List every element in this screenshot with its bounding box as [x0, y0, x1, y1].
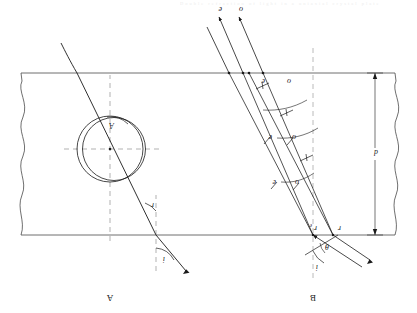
crystal-slab	[20, 73, 399, 235]
panel-a-title: A	[106, 293, 113, 303]
dimension-arrow-top	[373, 229, 377, 235]
panelB-angle-r-o-label: r	[337, 224, 341, 233]
dot	[312, 234, 314, 236]
panelB-incident-ray-1	[313, 235, 362, 267]
panelA-exit-ray	[61, 43, 77, 73]
panelB-exit-ray-o	[239, 17, 263, 73]
panelB-internal-rays	[229, 73, 333, 235]
panelB-incident-ray-2	[333, 235, 370, 260]
diagram-svg: d i θ r r e	[0, 0, 417, 313]
thickness-dimension: d	[367, 73, 383, 235]
panelB-angle-i-arc	[313, 251, 324, 263]
panelB-wavefronts: o e o e o e	[261, 77, 318, 187]
panelB-internal-ray-o2	[243, 73, 313, 235]
ellipsoid-centre-dot	[109, 148, 112, 151]
panelB-internal-ray-e2	[229, 73, 313, 235]
panelB-optic-axis	[305, 235, 338, 255]
panelB-angle-r-e-label: r	[313, 224, 317, 233]
panelB-wavefront-label-o3: o	[287, 77, 291, 86]
panelB-exit-ray-e	[219, 17, 243, 73]
panelB-exit-label-e: e	[218, 5, 222, 14]
panel-a: i r A A	[61, 43, 190, 303]
panelA-refracted-ray	[77, 73, 156, 235]
slab-right-break-edge	[20, 73, 25, 235]
panelB-wavefront-label-o2: o	[292, 133, 296, 142]
panelB-exit-label-o: o	[239, 5, 243, 14]
thickness-label-d: d	[373, 148, 378, 157]
panel-b-title: B	[310, 293, 316, 303]
slab-left-break-edge	[394, 73, 399, 235]
panelA-incident-ray	[156, 235, 186, 271]
panelB-wavefront-arc-2	[277, 128, 318, 138]
dimension-arrow-bottom	[373, 73, 377, 79]
dot	[332, 234, 334, 236]
panelB-wavefront-arc-3	[263, 100, 307, 110]
panelA-angle-r-label: r	[150, 201, 154, 210]
panelA-angle-i-label: i	[163, 255, 165, 264]
panelB-vibration-ticks	[256, 82, 313, 190]
figure-root: Double refraction of light in a uniaxial…	[0, 0, 417, 313]
panelB-incident-arrow-2	[367, 259, 373, 264]
panelB-internal-ray-o1	[263, 73, 333, 235]
panel-b: i θ r r e o e o	[207, 5, 373, 303]
panelB-wavefront-label-e3: e	[261, 77, 265, 86]
panelB-intersection-dots	[228, 72, 335, 237]
panelB-angle-i-label: i	[316, 263, 318, 272]
panelB-exit-ray-extra	[207, 27, 229, 73]
tick-mark	[306, 154, 307, 161]
panelB-angle-theta-label: θ	[325, 242, 329, 251]
tick-mark	[286, 109, 287, 116]
panelA-angle-A-label: A	[109, 121, 115, 130]
rotated-figure-canvas: d i θ r r e	[0, 0, 417, 313]
dot	[248, 72, 251, 75]
panelB-internal-ray-e1	[249, 73, 333, 235]
panelA-incident-arrow	[183, 269, 190, 274]
panelB-exit-rays	[207, 17, 263, 73]
